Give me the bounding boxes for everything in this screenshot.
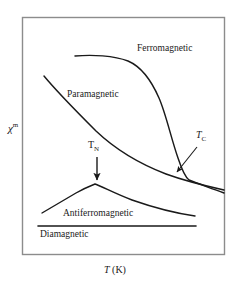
susceptibility-vs-temperature-figure: Ferromagnetic Paramagnetic Antiferromagn…	[0, 0, 249, 289]
label-ferromagnetic: Ferromagnetic	[137, 44, 192, 54]
y-axis-label: χm	[8, 122, 18, 134]
plot-frame	[23, 18, 225, 255]
label-antiferromagnetic: Antiferromagnetic	[63, 209, 133, 219]
x-axis-label: T (K)	[104, 265, 126, 275]
curie-temperature-label: TC	[196, 130, 206, 143]
x-axis-unit: (K)	[112, 264, 126, 275]
curie-subscript: C	[202, 135, 207, 143]
neel-temperature-label: TN	[88, 140, 99, 153]
label-diamagnetic: Diamagnetic	[40, 230, 89, 240]
neel-subscript: N	[94, 145, 99, 153]
y-axis-superscript: m	[13, 121, 18, 129]
plot-canvas	[0, 0, 249, 289]
x-axis-symbol: T	[104, 264, 110, 275]
label-paramagnetic: Paramagnetic	[67, 90, 119, 100]
